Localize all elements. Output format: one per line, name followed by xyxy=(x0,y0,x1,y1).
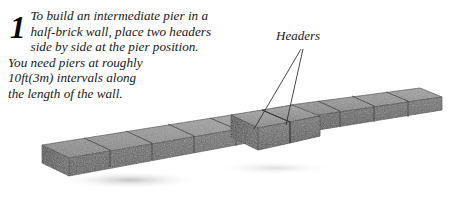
illustration-page: 1 To build an intermediate pier in a hal… xyxy=(0,0,451,198)
wall-shadow xyxy=(215,161,335,175)
brick-wall-illustration xyxy=(0,0,451,198)
